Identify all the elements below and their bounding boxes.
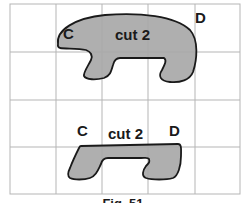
figure-canvas: C cut 2 D C cut 2 D [0,0,246,203]
bottom-label-d: D [169,122,180,139]
top-piece-shape [58,14,197,82]
top-label-c: C [63,25,74,42]
figure-caption: Fig. 51 [0,196,246,203]
top-label-d: D [195,9,206,26]
top-label-cut: cut 2 [115,26,150,43]
bottom-label-c: C [77,122,88,139]
bottom-piece-shape [68,144,181,180]
bottom-label-cut: cut 2 [108,125,143,142]
